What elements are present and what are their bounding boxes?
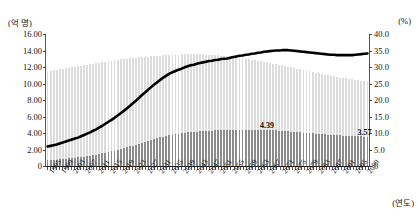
y-axis-left-tick-mark (43, 67, 46, 68)
y-axis-right-tick-mark (369, 67, 372, 68)
y-axis-left-tick-label: 10.00 (23, 79, 42, 89)
y-axis-left-tick-mark (43, 100, 46, 101)
y-axis-right-tick-label: 15.0 (374, 112, 389, 122)
y-axis-left-tick-label: 0 (38, 161, 42, 171)
y-axis-left-tick-mark (43, 133, 46, 134)
y-axis-left-tick-mark (43, 84, 46, 85)
x-axis-tick-labels: 1995199920032007201120152019202320272031… (45, 170, 370, 210)
y-axis-right-unit-label: (%) (398, 16, 411, 26)
y-axis-right-tick-mark (369, 150, 372, 151)
y-axis-right-tick-label: 40.0 (374, 29, 389, 39)
data-point-label: 3.57 (357, 128, 371, 137)
y-axis-right-tick-mark (369, 100, 372, 101)
y-axis-right-tick-mark (369, 34, 372, 35)
x-axis-title: (연도) (392, 196, 414, 208)
chart-container: (억 명) (%) 16.0014.0012.0010.008.006.004.… (0, 0, 418, 218)
percentage-line (48, 50, 368, 146)
plot-area: 16.0014.0012.0010.008.006.004.002.000 40… (45, 34, 370, 167)
y-axis-right-tick-label: 10.0 (374, 128, 389, 138)
y-axis-left-tick-label: 8.00 (27, 95, 42, 105)
y-axis-right-tick-label: 30.0 (374, 62, 389, 72)
line-series-svg (46, 34, 369, 166)
y-axis-left-tick-label: 6.00 (27, 112, 42, 122)
y-axis-right-tick-label: 20.0 (374, 95, 389, 105)
y-axis-right-tick-mark (369, 51, 372, 52)
y-axis-left-tick-mark (43, 34, 46, 35)
y-axis-left-tick-mark (43, 117, 46, 118)
y-axis-left-unit-label: (억 명) (8, 16, 32, 28)
y-axis-right-tick-label: 25.0 (374, 79, 389, 89)
y-axis-right-tick-mark (369, 117, 372, 118)
y-axis-left-tick-label: 14.00 (23, 46, 42, 56)
y-axis-left-tick-mark (43, 51, 46, 52)
y-axis-left-tick-label: 4.00 (27, 128, 42, 138)
data-point-label: 4.39 (260, 121, 274, 130)
y-axis-right-tick-mark (369, 84, 372, 85)
y-axis-left-tick-label: 2.00 (27, 145, 42, 155)
y-axis-left-tick-mark (43, 150, 46, 151)
y-axis-left-tick-label: 12.00 (23, 62, 42, 72)
y-axis-right-tick-label: 5.0 (374, 145, 385, 155)
y-axis-left-tick-label: 16.00 (23, 29, 42, 39)
y-axis-right-tick-label: 35.0 (374, 46, 389, 56)
